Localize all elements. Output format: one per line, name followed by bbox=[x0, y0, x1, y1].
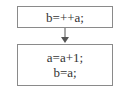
arrow-down-icon bbox=[59, 28, 71, 44]
flowchart-node-equivalent: a=a+1; b=a; bbox=[17, 44, 113, 86]
node-text-line: a=a+1; bbox=[18, 50, 112, 65]
node-text-line: b=a; bbox=[18, 65, 112, 80]
node-text-line: b=++a; bbox=[18, 10, 112, 25]
flowchart-node-prefix-increment: b=++a; bbox=[17, 6, 113, 28]
